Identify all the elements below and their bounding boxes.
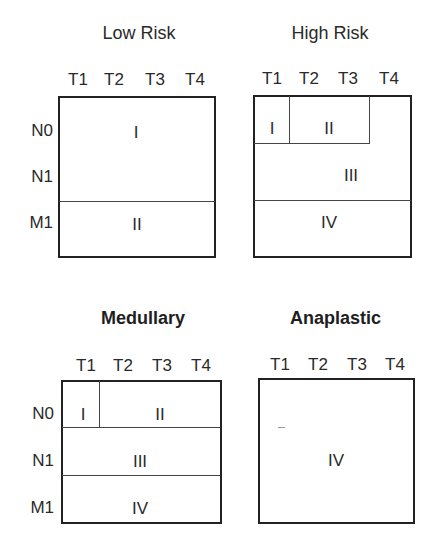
row-label-n1: N1 — [13, 168, 53, 185]
column-label-t1: T1 — [71, 357, 101, 374]
column-label-t1: T1 — [265, 356, 295, 373]
panel-title-low-risk: Low Risk — [93, 24, 185, 42]
stage-label-i: I — [134, 124, 139, 141]
column-label-t4: T4 — [380, 356, 410, 373]
row-label-n1: N1 — [14, 452, 54, 469]
scan-artifact-mark — [278, 427, 285, 428]
divider-line — [289, 96, 290, 144]
stage-label-ii: II — [324, 120, 333, 137]
column-label-t1: T1 — [63, 71, 93, 88]
stage-label-iv: IV — [321, 214, 337, 231]
column-label-t3: T3 — [333, 70, 363, 87]
column-label-t4: T4 — [374, 70, 404, 87]
stage-label-iv: IV — [328, 452, 344, 469]
column-label-t3: T3 — [342, 356, 372, 373]
column-label-t2: T2 — [99, 71, 129, 88]
column-label-t4: T4 — [186, 357, 216, 374]
column-label-t3: T3 — [147, 357, 177, 374]
staging-grid-low-risk — [58, 96, 216, 258]
stage-label-iii: III — [344, 167, 358, 184]
column-label-t1: T1 — [257, 70, 287, 87]
panel-title-anaplastic: Anaplastic — [278, 309, 393, 327]
stage-label-i: I — [81, 406, 86, 423]
stage-label-ii: II — [132, 216, 141, 233]
row-label-m1: M1 — [14, 499, 54, 516]
column-label-t2: T2 — [108, 357, 138, 374]
divider-line — [254, 143, 370, 144]
stage-label-iv: IV — [132, 500, 148, 517]
column-label-t2: T2 — [303, 356, 333, 373]
column-label-t3: T3 — [140, 71, 170, 88]
stage-label-iii: III — [133, 453, 147, 470]
divider-line — [59, 201, 215, 202]
panel-title-high-risk: High Risk — [281, 24, 379, 42]
stage-label-ii: II — [155, 406, 164, 423]
divider-line — [369, 96, 370, 144]
row-label-n0: N0 — [13, 122, 53, 139]
divider-line — [99, 381, 100, 428]
divider-line — [62, 475, 220, 476]
stage-label-i: I — [270, 120, 275, 137]
divider-line — [254, 200, 411, 201]
column-label-t4: T4 — [180, 71, 210, 88]
row-label-n0: N0 — [14, 405, 54, 422]
row-label-m1: M1 — [13, 214, 53, 231]
column-label-t2: T2 — [294, 70, 324, 87]
divider-line — [62, 427, 220, 428]
panel-title-medullary: Medullary — [89, 309, 197, 327]
